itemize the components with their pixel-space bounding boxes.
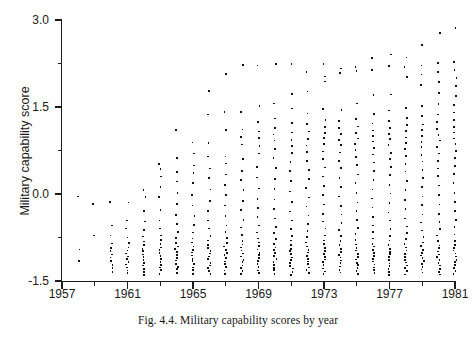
scatter-point xyxy=(455,150,457,152)
scatter-point xyxy=(455,219,457,221)
y-tick-label: 1.5 xyxy=(32,100,49,114)
x-tick-label: 1981 xyxy=(442,287,469,301)
x-tick-minor xyxy=(422,282,423,286)
x-axis-tick-labels: 1957196119651969197319771981 xyxy=(0,287,476,305)
x-tick-minor xyxy=(291,282,292,286)
x-tick-label: 1977 xyxy=(376,287,403,301)
x-tick-label: 1957 xyxy=(49,287,76,301)
figure-caption: Fig. 4.4. Military capability scores by … xyxy=(0,314,476,326)
plot-area xyxy=(62,20,455,281)
x-tick-minor xyxy=(160,282,161,286)
scatter-point xyxy=(455,85,457,87)
x-tick-minor xyxy=(356,282,357,286)
scatter-point xyxy=(456,259,458,261)
x-tick-minor xyxy=(94,282,95,286)
x-tick-minor xyxy=(225,282,226,286)
x-tick-label: 1969 xyxy=(245,287,272,301)
scatter-point xyxy=(456,77,458,79)
scatter-point xyxy=(455,95,457,97)
figure-military-capability-scores: Military capability score -1.50.01.53.0 … xyxy=(0,0,476,342)
x-tick-label: 1965 xyxy=(180,287,207,301)
x-tick-label: 1961 xyxy=(114,287,141,301)
y-tick-label: 3.0 xyxy=(32,13,49,27)
x-tick-label: 1973 xyxy=(311,287,338,301)
y-tick-label: 0.0 xyxy=(32,187,49,201)
scatter-point xyxy=(455,256,457,258)
